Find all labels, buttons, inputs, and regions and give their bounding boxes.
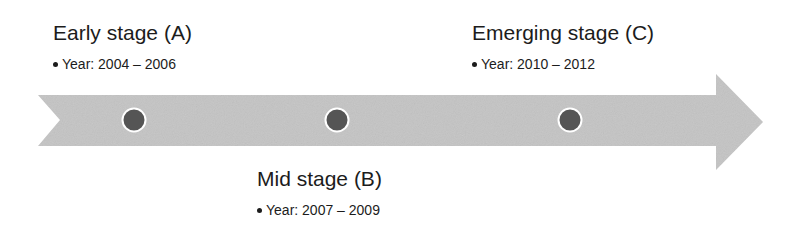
bullet-icon: [257, 208, 262, 213]
marker-a-icon: [123, 109, 146, 132]
stage-b-years: Year: 2007 – 2009: [257, 201, 382, 219]
stage-c-years-text: Year: 2010 – 2012: [481, 55, 595, 73]
stage-c-label: Emerging stage (C) Year: 2010 – 2012: [472, 21, 654, 73]
stage-c-title: Emerging stage (C): [472, 21, 654, 45]
stage-a-title: Early stage (A): [53, 21, 192, 45]
arrow-shape: [38, 74, 763, 170]
stage-b-title: Mid stage (B): [257, 167, 382, 191]
stage-b-label: Mid stage (B) Year: 2007 – 2009: [257, 167, 382, 219]
stage-a-label: Early stage (A) Year: 2004 – 2006: [53, 21, 192, 73]
bullet-icon: [472, 62, 477, 67]
stage-a-years: Year: 2004 – 2006: [53, 55, 192, 73]
marker-b-icon: [326, 109, 349, 132]
marker-c-icon: [559, 109, 582, 132]
stage-b-years-text: Year: 2007 – 2009: [266, 201, 380, 219]
bullet-icon: [53, 62, 58, 67]
stage-a-years-text: Year: 2004 – 2006: [62, 55, 176, 73]
stage-c-years: Year: 2010 – 2012: [472, 55, 654, 73]
